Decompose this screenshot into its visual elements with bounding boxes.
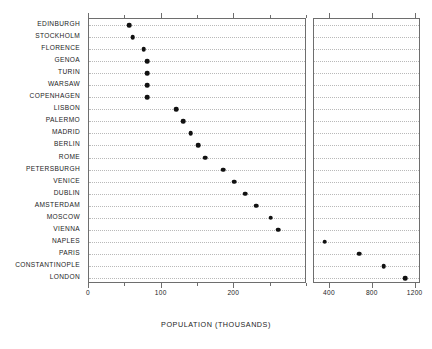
chart-panel-left [88,18,306,283]
data-point-rome [203,155,208,160]
gridline-row [314,37,419,38]
category-label-stockholm: STOCKHOLM [35,33,80,40]
gridline-row [89,194,305,195]
x-tick-major [415,283,416,288]
data-point-naples [322,240,327,245]
data-point-palermo [181,119,186,124]
x-tick-major [233,283,234,288]
gridline-row [89,133,305,134]
category-label-moscow: MOSCOW [47,213,80,220]
category-label-rome: ROME [59,153,80,160]
gridline-row [314,49,419,50]
data-point-constantinople [381,264,386,269]
category-label-warsaw: WARSAW [48,81,80,88]
x-tick-major-top [233,13,234,18]
data-point-genoa [145,59,150,64]
gridline-row [89,121,305,122]
gridline-row [314,170,419,171]
gridline-row [314,158,419,159]
gridline-row [89,254,305,255]
gridline-row [314,73,419,74]
gridline-row [89,49,305,50]
gridline-row [314,182,419,183]
x-tick-minor-top [270,15,271,18]
gridline-row [314,218,419,219]
gridline-row [314,109,419,110]
category-label-turin: TURIN [58,69,80,76]
x-tick-major [88,283,89,288]
gridline-row [89,109,305,110]
gridline-row [314,133,419,134]
gridline-row [89,73,305,74]
category-label-dublin: DUBLIN [54,189,80,196]
category-label-madrid: MADRID [52,129,80,136]
x-tick-major-top [415,13,416,18]
gridline-row [89,206,305,207]
gridline-row [89,158,305,159]
data-point-vienna [276,227,281,232]
data-point-amsterdam [254,203,259,208]
gridline-row [89,61,305,62]
category-label-naples: NAPLES [52,238,80,245]
data-point-stockholm [130,35,135,40]
data-point-edinburgh [127,23,132,28]
gridline-row [314,25,419,26]
x-tick-minor-top [197,15,198,18]
gridline-row [89,37,305,38]
data-point-warsaw [145,83,150,88]
category-label-vienna: VIENNA [53,225,80,232]
category-label-paris: PARIS [59,250,80,257]
gridline-row [89,170,305,171]
x-tick-minor [306,283,307,286]
x-tick-minor [197,283,198,286]
x-tick-label: 200 [227,290,239,297]
gridline-row [89,97,305,98]
category-label-constantinople: CONSTANTINOPLE [15,262,80,269]
gridline-row [314,145,419,146]
gridline-row [89,278,305,279]
data-point-florence [141,47,146,52]
x-axis-title: POPULATION (THOUSANDS) [0,320,432,329]
data-point-dublin [243,191,248,196]
gridline-row [89,182,305,183]
category-axis-labels: EDINBURGHSTOCKHOLMFLORENCEGENOATURINWARS… [0,18,84,283]
x-tick-minor [270,283,271,286]
category-label-berlin: BERLIN [54,141,80,148]
data-point-moscow [268,215,273,220]
data-point-venice [232,179,237,184]
gridline-row [314,194,419,195]
x-tick-label: 400 [323,290,335,297]
x-tick-major [329,283,330,288]
data-point-london [403,276,408,281]
data-point-madrid [188,131,193,136]
gridline-row [314,206,419,207]
x-tick-minor-top [306,15,307,18]
category-label-copenhagen: COPENHAGEN [30,93,80,100]
x-tick-label: 1200 [407,290,423,297]
data-point-berlin [196,143,201,148]
gridline-row [314,230,419,231]
x-tick-minor-top [124,15,125,18]
x-tick-major-top [372,13,373,18]
x-tick-label: 100 [155,290,167,297]
category-label-genoa: GENOA [54,57,80,64]
x-tick-major-top [88,13,89,18]
chart-panel-right [313,18,420,283]
x-tick-label: 800 [366,290,378,297]
data-point-paris [357,252,362,257]
category-label-lisbon: LISBON [54,105,80,112]
gridline-row [314,61,419,62]
gridline-row [314,97,419,98]
gridline-row [314,254,419,255]
population-dot-chart: EDINBURGHSTOCKHOLMFLORENCEGENOATURINWARS… [0,0,432,349]
gridline-row [314,85,419,86]
category-label-palermo: PALERMO [46,117,80,124]
category-label-venice: VENICE [53,177,80,184]
gridline-row [89,230,305,231]
gridline-row [89,25,305,26]
gridline-row [89,85,305,86]
gridline-row [89,266,305,267]
gridline-row [89,242,305,243]
x-tick-major [161,283,162,288]
x-tick-major-top [329,13,330,18]
